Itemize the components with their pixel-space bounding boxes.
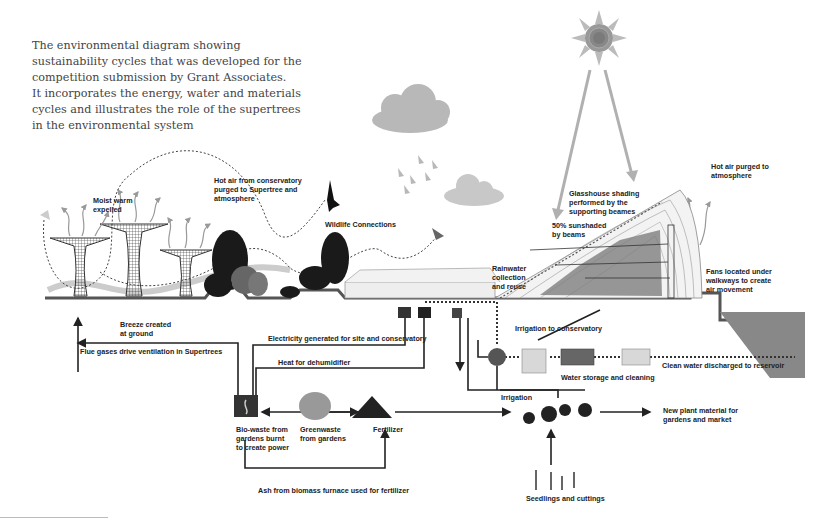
building	[345, 282, 495, 298]
label-rainwater: Rainwatercollectionand reuse	[492, 264, 526, 291]
clean-tank	[622, 349, 650, 365]
bird-icon	[327, 180, 340, 212]
label-wildlife: Wildlife Connections	[325, 220, 396, 229]
label-hot-air-purged: Hot air purged toatmosphere	[711, 162, 769, 180]
label-irrigation-conservatory: Irrigation to conservatory	[515, 324, 602, 333]
label-water-storage: Water storage and cleaning	[561, 373, 655, 382]
label-clean-water: Clean water discharged to reservoir	[662, 361, 784, 370]
water-storage-tank	[561, 349, 594, 365]
rain-cloud-icon	[372, 84, 450, 194]
seedlings-icon	[536, 470, 574, 490]
filter-tank	[522, 349, 546, 373]
sun-icon	[571, 10, 627, 66]
label-fertilizer: Fertilizer	[373, 425, 403, 434]
label-flue-gases: Flue gases drive ventilation in Supertre…	[80, 347, 222, 356]
label-greenwaste: Greenwastefrom gardens	[300, 425, 346, 443]
label-electricity: Electricity generated for site and conse…	[268, 334, 427, 343]
potted-plants-icon	[523, 403, 592, 424]
label-sunshaded: 50% sunshadedby beams	[552, 221, 606, 239]
label-irrigation: Irrigation	[501, 393, 532, 402]
label-heat-dehumidifier: Heat for dehumidifier	[278, 358, 350, 367]
label-glasshouse-shading: Glasshouse shadingperformed by thesuppor…	[569, 189, 639, 216]
sustainability-diagram	[0, 0, 820, 524]
generator-box	[398, 307, 411, 318]
dehumidifier-box	[418, 307, 431, 318]
sun-ray-arrow	[605, 70, 632, 175]
divider-rule	[0, 517, 108, 518]
label-breeze: Breeze createdat ground	[120, 320, 171, 338]
label-new-plant: New plant material forgardens and market	[663, 406, 738, 424]
label-ash: Ash from biomass furnace used for fertil…	[258, 486, 409, 495]
rain-cloud-icon	[444, 174, 504, 206]
water-pump-icon	[488, 348, 506, 366]
forest-icon	[204, 230, 349, 298]
label-hot-air-conservatory: Hot air from conservatorypurged to Super…	[214, 176, 302, 203]
label-moist-warm: Moist warmexpelled	[93, 196, 133, 214]
label-biowaste: Bio-waste fromgardens burntto create pow…	[236, 425, 289, 452]
label-seedlings: Seedlings and cuttings	[526, 494, 605, 503]
greenwaste-icon	[299, 392, 331, 420]
butterfly-icon	[432, 228, 444, 240]
fertilizer-icon	[352, 396, 392, 418]
label-fans: Fans located underwalkways to createair …	[706, 267, 772, 294]
